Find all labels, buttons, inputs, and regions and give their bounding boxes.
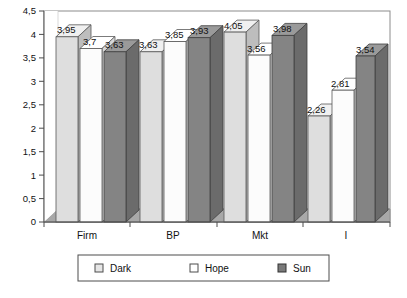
legend-item-sun[interactable]: Sun bbox=[278, 263, 311, 274]
x-tick-label-firm: Firm bbox=[77, 230, 97, 241]
value-label-bp-sun: 3,93 bbox=[190, 25, 209, 36]
bar-bp-sun bbox=[188, 26, 223, 222]
bar-mkt-sun bbox=[272, 23, 307, 222]
y-tick-label-1: 1 bbox=[31, 170, 36, 181]
legend-item-hope[interactable]: Hope bbox=[190, 263, 229, 274]
y-tick-label-4-5: 4,5 bbox=[23, 5, 36, 16]
legend-label-dark: Dark bbox=[110, 263, 132, 274]
y-tick-label-4: 4 bbox=[31, 29, 36, 40]
value-label-firm-dark: 3,95 bbox=[57, 24, 76, 35]
bar-group-firm bbox=[56, 25, 139, 222]
y-tick-label-2-5: 2,5 bbox=[23, 99, 36, 110]
chart-canvas: 4,5 4 3,5 3 2,5 2 1,5 1 0,5 0 bbox=[0, 0, 407, 298]
value-label-i-hope: 2,81 bbox=[331, 78, 350, 89]
legend-item-dark[interactable]: Dark bbox=[95, 263, 132, 274]
legend: Dark Hope Sun bbox=[78, 255, 329, 281]
x-tick-label-i: I bbox=[345, 230, 348, 241]
bar-group-mkt bbox=[224, 20, 307, 222]
bar-i-sun bbox=[356, 44, 388, 222]
legend-label-sun: Sun bbox=[293, 263, 311, 274]
legend-label-hope: Hope bbox=[205, 263, 229, 274]
value-label-mkt-dark: 4,05 bbox=[224, 20, 243, 31]
y-tick-label-1-5: 1,5 bbox=[23, 146, 36, 157]
value-label-bp-hope: 3,85 bbox=[165, 29, 184, 40]
value-label-firm-hope: 3,7 bbox=[83, 36, 96, 47]
y-tick-label-0: 0 bbox=[31, 216, 36, 227]
y-tick-label-0-5: 0,5 bbox=[23, 193, 36, 204]
value-label-i-sun: 3,54 bbox=[356, 44, 375, 55]
x-tick-label-mkt: Mkt bbox=[252, 230, 268, 241]
y-axis: 4,5 4 3,5 3 2,5 2 1,5 1 0,5 0 bbox=[23, 5, 44, 227]
bar-chart: 4,5 4 3,5 3 2,5 2 1,5 1 0,5 0 bbox=[0, 0, 407, 298]
x-axis: Firm BP Mkt I bbox=[44, 222, 390, 241]
y-tick-label-3: 3 bbox=[31, 76, 36, 87]
bar-group-bp bbox=[140, 26, 223, 222]
value-label-bp-dark: 3,63 bbox=[139, 39, 158, 50]
value-label-mkt-sun: 3,98 bbox=[273, 23, 292, 34]
x-tick-label-bp: BP bbox=[166, 230, 180, 241]
value-label-i-dark: 2,26 bbox=[307, 104, 326, 115]
value-label-firm-sun: 3,63 bbox=[105, 39, 124, 50]
y-tick-label-3-5: 3,5 bbox=[23, 52, 36, 63]
y-tick-label-2: 2 bbox=[31, 123, 36, 134]
bar-firm-sun bbox=[104, 40, 139, 222]
value-label-mkt-hope: 3,56 bbox=[247, 43, 266, 54]
